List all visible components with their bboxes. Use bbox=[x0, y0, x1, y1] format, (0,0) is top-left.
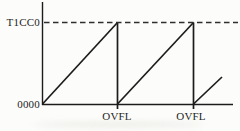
overflow-label-1: OVFL bbox=[102, 110, 132, 122]
ramp-1 bbox=[43, 23, 118, 105]
t1cc0-compare-label: T1CC0 bbox=[7, 16, 41, 28]
counter-zero-label: 0000 bbox=[17, 98, 40, 110]
waveform-svg: T1CC0 0000 OVFL OVFL bbox=[0, 0, 240, 131]
ramp-3-partial bbox=[194, 77, 223, 104]
overflow-label-2: OVFL bbox=[176, 110, 206, 122]
timer-sawtooth-diagram: T1CC0 0000 OVFL OVFL bbox=[0, 0, 240, 131]
ramp-2 bbox=[118, 23, 194, 105]
